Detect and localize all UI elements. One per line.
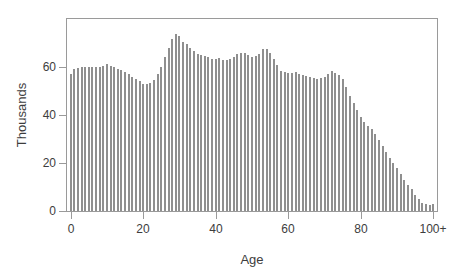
bar (182, 42, 184, 211)
bar (240, 53, 242, 211)
bar (218, 58, 220, 211)
x-tick-label: 40 (191, 222, 241, 236)
bar (164, 57, 166, 211)
bar (215, 59, 217, 211)
bar (313, 78, 315, 211)
bar (124, 72, 126, 211)
bar (360, 117, 362, 211)
bar (193, 51, 195, 211)
bar (349, 96, 351, 211)
bar (374, 134, 376, 211)
bar (222, 60, 224, 211)
bar (233, 57, 235, 211)
bar (113, 67, 115, 211)
y-tick-label: 0 (16, 205, 56, 217)
bar (287, 73, 289, 211)
bar (414, 195, 416, 211)
x-tick-mark (288, 212, 289, 219)
bar (204, 56, 206, 211)
bar (81, 67, 83, 211)
x-tick-mark (361, 212, 362, 219)
bars-container (67, 19, 437, 211)
bar (146, 84, 148, 211)
bar (200, 55, 202, 211)
bar (153, 80, 155, 211)
bar (99, 67, 101, 211)
bar (236, 54, 238, 211)
bar (389, 158, 391, 211)
bar (331, 71, 333, 211)
bar (102, 66, 104, 211)
x-tick-label: 60 (263, 222, 313, 236)
y-tick-mark (59, 115, 66, 116)
bar (356, 110, 358, 211)
bar (229, 59, 231, 211)
bar (258, 54, 260, 211)
bar (255, 56, 257, 211)
bar (95, 67, 97, 211)
bar (226, 60, 228, 211)
bar (160, 67, 162, 211)
bar (120, 70, 122, 211)
population-age-histogram: Thousands Age 0204060020406080100+ (0, 0, 458, 280)
x-axis-title: Age (66, 252, 438, 267)
bar (139, 81, 141, 211)
bar (88, 67, 90, 211)
x-tick-mark (143, 212, 144, 219)
bar (91, 67, 93, 211)
bar (403, 180, 405, 211)
bar (316, 79, 318, 211)
bar (273, 59, 275, 211)
bar (295, 72, 297, 211)
bar (197, 54, 199, 211)
bar (211, 59, 213, 211)
bar (382, 146, 384, 211)
bar (175, 34, 177, 211)
bar (276, 65, 278, 211)
bar (385, 152, 387, 211)
bar (411, 189, 413, 211)
y-tick-label: 20 (16, 157, 56, 169)
bar (371, 129, 373, 211)
x-tick-mark (433, 212, 434, 219)
bar (262, 49, 264, 211)
bar (396, 168, 398, 211)
x-tick-label: 20 (118, 222, 168, 236)
bar (378, 140, 380, 211)
bar (142, 84, 144, 211)
bar (302, 75, 304, 211)
bar (84, 67, 86, 211)
bar (269, 53, 271, 211)
bar (429, 205, 431, 211)
x-tick-mark (71, 212, 72, 219)
bar (207, 57, 209, 211)
x-tick-mark (216, 212, 217, 219)
bar (363, 122, 365, 211)
y-tick-mark (59, 211, 66, 212)
bar (367, 126, 369, 211)
bar (421, 203, 423, 211)
bar (327, 74, 329, 211)
bar (298, 74, 300, 211)
bar (178, 36, 180, 211)
x-tick-label: 80 (336, 222, 386, 236)
bar (135, 79, 137, 211)
bar (418, 199, 420, 211)
y-tick-label: 40 (16, 109, 56, 121)
bar (168, 48, 170, 211)
bar (291, 73, 293, 211)
bar (407, 185, 409, 211)
bar (432, 204, 434, 211)
y-tick-label: 60 (16, 61, 56, 73)
bar (334, 73, 336, 211)
bar (309, 77, 311, 211)
y-tick-mark (59, 163, 66, 164)
bar (157, 74, 159, 211)
y-tick-mark (59, 67, 66, 68)
bar (425, 204, 427, 211)
bar (251, 57, 253, 211)
bar (305, 76, 307, 211)
bar (342, 79, 344, 211)
bar (244, 53, 246, 211)
x-tick-label: 100+ (408, 222, 458, 236)
